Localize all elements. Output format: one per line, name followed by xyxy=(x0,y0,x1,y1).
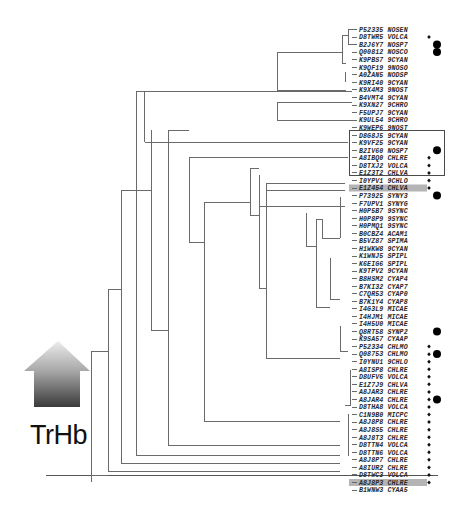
leaf-label: K9SA57 CYAAP xyxy=(359,336,408,343)
leaf-row: A8J8T3 CHLRE xyxy=(352,435,431,442)
leaf-row: D8THA8 VOLCA xyxy=(352,404,431,411)
leaf-row: K9WEP6 9NOST xyxy=(352,125,409,132)
leaf-row: B2IV60 NOSP7 xyxy=(352,146,441,154)
leaf-row: H0P8P9 9SYNC xyxy=(352,216,408,223)
leaf-label: P73925 SYNY3 xyxy=(359,193,408,200)
diamond-marker-icon xyxy=(427,382,431,386)
leaf-label: A8J8P8 CHLRE xyxy=(358,419,409,426)
leaf-label: B4VMT4 9CYAN xyxy=(359,95,409,102)
leaf-row: C7QR53 CYAP0 xyxy=(352,291,408,298)
leaf-label: Q08753 CHLMO xyxy=(359,351,408,358)
leaf-label: B2J6Y7 NOSP7 xyxy=(359,42,409,49)
leaf-label: A8J8S5 CHLRE xyxy=(358,427,409,434)
leaf-row: F7UPV1 SYNYG xyxy=(352,201,408,208)
leaf-row: A8IUR2 CHLRE xyxy=(352,465,431,472)
diamond-marker-icon xyxy=(427,171,431,175)
leaf-label: E1Z454 CHLVA xyxy=(359,185,408,192)
dot-marker-icon xyxy=(433,146,441,154)
leaf-row: A8ISP8 CHLRE xyxy=(352,367,431,374)
leaf-row: P52335 NOSEN xyxy=(352,27,409,34)
leaf-row: D8TXJ2 VOLCA xyxy=(352,163,431,170)
leaf-label: C7QR53 CYAP0 xyxy=(359,291,408,298)
leaf-label: A8JAR4 CHLRE xyxy=(358,397,409,404)
trhb-label: TrHb xyxy=(30,420,87,451)
leaf-label: I4HJM1 MICAE xyxy=(359,314,409,321)
leaf-label: D8TXJ2 VOLCA xyxy=(359,163,408,170)
dot-marker-icon xyxy=(433,41,441,49)
diamond-marker-icon xyxy=(427,473,431,477)
leaf-row: K9SA57 CYAAP xyxy=(352,336,408,343)
leaf-row: A8IBQ0 CHLRE xyxy=(352,155,431,162)
leaf-row: H1WKW8 9CYAN xyxy=(352,246,409,253)
leaf-row: D8UFV6 VOLCA xyxy=(352,374,431,381)
diamond-marker-icon xyxy=(427,345,431,349)
diamond-marker-icon xyxy=(427,186,431,190)
leaf-row: K9PBS7 9CYAN xyxy=(352,57,409,64)
diamond-marker-icon xyxy=(427,360,431,364)
leaf-label: D8TTN4 VOLCA xyxy=(359,442,408,449)
diamond-marker-icon xyxy=(427,458,431,462)
leaf-label: K9X4M3 9NOST xyxy=(359,87,409,94)
leaf-row: B7KI32 CYAP7 xyxy=(352,284,409,291)
leaf-label: K9WEP6 9NOST xyxy=(359,125,409,132)
leaf-row: B5VZ87 SPIMA xyxy=(352,238,408,245)
leaf-label: B5VZ87 SPIMA xyxy=(359,238,408,245)
diamond-marker-icon xyxy=(427,156,431,160)
leaf-row: K1WNJ5 SPIPL xyxy=(352,253,408,260)
dot-marker-icon xyxy=(433,48,441,56)
leaf-label: B8HSM2 CYAP4 xyxy=(359,276,408,283)
dot-marker-icon xyxy=(433,192,441,200)
diamond-marker-icon xyxy=(427,397,431,401)
dot-marker-icon xyxy=(433,328,441,336)
diamond-marker-icon xyxy=(427,450,431,454)
leaf-label: Q8RT58 SYNP2 xyxy=(359,329,408,336)
leaf-row: B0CBZ4 ACAM1 xyxy=(352,231,408,238)
leaf-label: K6EIG6 SPIPL xyxy=(359,261,408,268)
leaf-label: H1WKW8 9CYAN xyxy=(359,246,409,253)
diamond-marker-icon xyxy=(427,35,431,39)
leaf-row: K9VF25 9CYAN xyxy=(352,140,409,147)
leaf-label: K9QF19 9NOSO xyxy=(359,65,408,72)
diamond-marker-icon xyxy=(427,443,431,447)
leaf-label: E1Z7J9 CHLVA xyxy=(359,382,408,389)
leaf-label: C1N9B0 MICPC xyxy=(359,412,408,419)
leaf-row: D8TTN6 VOLCA xyxy=(352,450,431,457)
leaf-label: I0YPV1 9CHLO xyxy=(359,178,408,185)
leaf-label: B2IV60 NOSP7 xyxy=(359,148,409,155)
leaf-label: D8TWR5 VOLCA xyxy=(359,34,408,41)
diamond-marker-icon xyxy=(427,163,431,167)
leaf-row: A0ZAN5 NODSP xyxy=(352,72,408,79)
leaf-row: H0P5B7 9SYNC xyxy=(352,208,408,215)
diamond-marker-icon xyxy=(427,420,431,424)
leaf-label: D8G8J5 9CYAN xyxy=(359,133,409,140)
diamond-marker-icon xyxy=(427,390,431,394)
leaf-label: D8THA8 VOLCA xyxy=(359,404,408,411)
leaf-label: F7UPV1 SYNYG xyxy=(359,201,408,208)
leaf-label: F5UPJ7 9CYAN xyxy=(359,110,409,117)
up-arrow-icon xyxy=(24,341,90,407)
leaf-row: E1Z7J9 CHLVA xyxy=(352,382,431,389)
leaf-label: P52335 NOSEN xyxy=(359,27,409,34)
diamond-marker-icon xyxy=(427,465,431,469)
tree-branches xyxy=(91,29,352,482)
leaf-row: A8JAR4 CHLRE xyxy=(352,395,441,403)
leaf-row: A8J8P8 CHLRE xyxy=(352,419,431,426)
leaf-label: A8JAR3 CHLRE xyxy=(358,389,409,396)
leaf-row: B4VMT4 9CYAN xyxy=(352,95,409,102)
diamond-marker-icon xyxy=(427,352,431,356)
leaf-row: K6EIG6 SPIPL xyxy=(352,261,408,268)
leaf-row: B1WNW3 CYAA5 xyxy=(352,487,408,494)
diamond-marker-icon xyxy=(427,435,431,439)
leaf-row: F5UPJ7 9CYAN xyxy=(352,110,409,117)
leaf-row: I0YNU1 9CHLO xyxy=(352,359,431,366)
diamond-marker-icon xyxy=(427,375,431,379)
leaf-label: I4H5U0 MICAE xyxy=(359,321,409,328)
leaf-label: D8UFV6 VOLCA xyxy=(359,374,408,381)
leaf-label: D8TWC3 VOLCA xyxy=(359,472,408,479)
dot-marker-icon xyxy=(433,395,441,403)
leaf-label: K9RI40 9CYAN xyxy=(359,80,409,87)
leaf-row: D8TWR5 VOLCA xyxy=(352,34,431,41)
diamond-marker-icon xyxy=(427,367,431,371)
leaf-label: A0ZAN5 NODSP xyxy=(358,72,408,79)
diamond-marker-icon xyxy=(427,405,431,409)
